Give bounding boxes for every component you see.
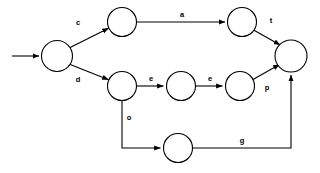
edge-p-to-final bbox=[253, 65, 280, 80]
edge-label-e-1: e bbox=[149, 74, 153, 83]
node-middle-2[interactable] bbox=[167, 72, 196, 101]
edge-label-e-2: e bbox=[208, 74, 212, 83]
node-start[interactable] bbox=[42, 41, 73, 72]
edge-label-d: d bbox=[76, 75, 81, 84]
edge-label-g: g bbox=[240, 136, 245, 145]
edge-label-p: p bbox=[265, 83, 270, 92]
graph-diagram: c d a t e e p o g bbox=[0, 0, 320, 173]
node-top-right[interactable] bbox=[228, 8, 257, 37]
node-middle-3[interactable] bbox=[226, 72, 255, 101]
node-top-left[interactable] bbox=[108, 8, 137, 37]
edge-o-mid-to-bottom bbox=[122, 101, 161, 149]
node-middle-1[interactable] bbox=[108, 72, 137, 101]
edge-label-c: c bbox=[76, 18, 80, 27]
edge-t-to-final bbox=[254, 30, 280, 45]
edge-label-a: a bbox=[180, 10, 185, 19]
graph-canvas: c d a t e e p o g bbox=[0, 0, 320, 173]
node-bottom[interactable] bbox=[164, 134, 193, 163]
node-final[interactable] bbox=[275, 40, 307, 72]
edge-label-t: t bbox=[270, 16, 273, 25]
edge-label-o: o bbox=[127, 113, 132, 122]
edge-c-start-to-top bbox=[70, 28, 109, 48]
